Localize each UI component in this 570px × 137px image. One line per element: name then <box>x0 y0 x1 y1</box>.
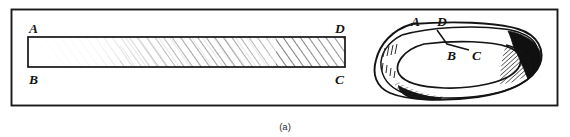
figure-caption: (a) <box>279 121 291 132</box>
band-label-b: B <box>446 48 456 63</box>
flat-strip-hatch-right <box>276 37 345 67</box>
figure-container: A B D C <box>0 0 570 137</box>
flat-strip-hatch-faint <box>120 37 270 67</box>
mobius-strip-figure: A B D C <box>0 0 570 137</box>
band-label-d: D <box>436 14 447 29</box>
flat-strip-label-a: A <box>28 21 38 36</box>
flat-strip-label-b: B <box>28 72 38 87</box>
flat-strip-group <box>28 37 345 67</box>
band-label-a: A <box>410 14 420 29</box>
flat-strip-label-c: C <box>335 72 345 87</box>
flat-strip-label-d: D <box>334 21 345 36</box>
band-label-c: C <box>472 48 482 63</box>
